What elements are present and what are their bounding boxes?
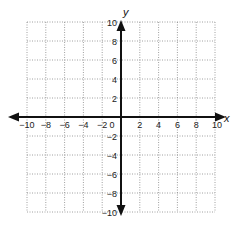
x-tick-label: −8 xyxy=(41,120,51,130)
x-tick-label: −10 xyxy=(19,120,34,130)
y-tick-label: −8 xyxy=(107,189,117,199)
x-tick-label: −4 xyxy=(78,120,88,130)
y-tick-label: 4 xyxy=(112,75,117,85)
x-axis-label: x xyxy=(223,112,230,124)
x-tick-label: −2 xyxy=(97,120,107,130)
x-tick-label: 8 xyxy=(194,120,199,130)
axes xyxy=(8,20,226,216)
y-tick-label: −6 xyxy=(107,170,117,180)
y-tick-label: −2 xyxy=(107,132,117,142)
x-tick-label: 6 xyxy=(175,120,180,130)
x-axis-left-arrow-icon xyxy=(8,113,19,122)
y-axis-label: y xyxy=(122,6,130,18)
y-tick-label: −10 xyxy=(102,208,117,218)
x-tick-label: −6 xyxy=(59,120,69,130)
y-tick-label: 8 xyxy=(112,37,117,47)
y-tick-label: 10 xyxy=(107,18,117,28)
y-tick-label: 6 xyxy=(112,56,117,66)
coordinate-plane: −10−8−6−4−2246810 108642−2−4−6−8−10 0 x … xyxy=(0,0,237,225)
x-tick-label: 10 xyxy=(212,120,222,130)
x-tick-label: 4 xyxy=(156,120,161,130)
origin-label: 0 xyxy=(109,120,114,130)
x-tick-label: 2 xyxy=(137,120,142,130)
y-tick-label: −4 xyxy=(107,151,117,161)
y-axis-down-arrow-icon xyxy=(117,205,126,216)
y-tick-label: 2 xyxy=(112,94,117,104)
